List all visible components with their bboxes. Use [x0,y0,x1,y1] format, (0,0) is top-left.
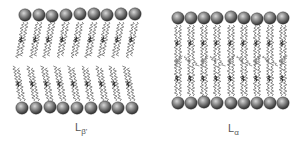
lipid-tail [204,62,208,96]
lipid-head [277,97,289,109]
phase-label-gel: Lβ' [75,122,87,133]
lipid-tail [244,25,248,60]
lipid-head [57,102,69,114]
lipid-head [46,10,58,22]
lipid-tail [255,41,257,46]
lipid-head [172,12,184,24]
lipid-head [211,97,223,109]
lipid-head [185,12,197,24]
lipid-tail [268,41,270,46]
lipid-head [264,12,276,24]
phase-label-liquid: Lα [228,123,239,134]
lipid-head [74,8,86,20]
lipid-head [16,102,28,114]
lipid-tail [217,62,221,96]
lipid-head [264,97,276,109]
lipid-tail [47,37,49,42]
lipid-tail [270,62,274,96]
lipid-tail [191,62,195,96]
lipid-head [185,97,197,109]
lipid-head [33,9,45,21]
bilayer-layer [13,8,289,114]
lipid-tail [102,37,104,42]
lipid-tail [178,62,182,96]
lipid-head [129,8,141,20]
lipid-tail [89,37,91,42]
lipid-head [198,96,210,108]
lipid-tail [244,62,248,96]
lipid-tail [257,25,261,60]
lipid-head [251,97,263,109]
lipid-tail [34,37,36,42]
lipid-head [30,102,42,114]
lipid-head [225,11,237,23]
lipid-tail [189,76,191,81]
lipid-tail [178,25,182,60]
lipid-head [211,12,223,24]
lipid-tail [204,25,208,60]
lipid-tail [270,25,274,60]
lipid-head [225,97,237,109]
lipid-head [277,12,289,24]
lipid-tail [281,76,283,81]
lipid-head [101,9,113,21]
lipid-tail [231,25,235,60]
lipid-head [19,9,31,21]
lipid-tail [281,41,283,46]
lipid-tail [242,41,244,46]
lipid-tail [242,76,244,81]
lipid-tail [189,41,191,46]
lipid-tail [255,76,257,81]
lipid-tail [257,62,261,96]
lipid-head [238,97,250,109]
lipid-tail [176,76,178,81]
lipid-head [112,102,124,114]
lipid-tail [191,25,195,60]
lipid-tail [283,62,287,96]
lipid-head [88,8,100,20]
lipid-head [60,9,72,21]
lipid-tail [217,25,221,60]
lipid-head [251,13,263,25]
lipid-tail [20,37,22,42]
lipid-head [198,12,210,24]
lipid-tail [268,76,270,81]
lipid-head [44,101,56,113]
lipid-head [238,12,250,24]
bilayer-diagram [0,0,304,145]
lipid-head [126,102,138,114]
lipid-tail [176,41,178,46]
lipid-head [115,8,127,20]
lipid-head [71,102,83,114]
lipid-tail [283,25,287,60]
lipid-head [85,102,97,114]
lipid-phase-figure: Lβ' Lα [0,0,304,145]
lipid-tail [231,62,235,96]
lipid-tail [116,37,118,42]
lipid-head [172,97,184,109]
lipid-head [99,101,111,113]
